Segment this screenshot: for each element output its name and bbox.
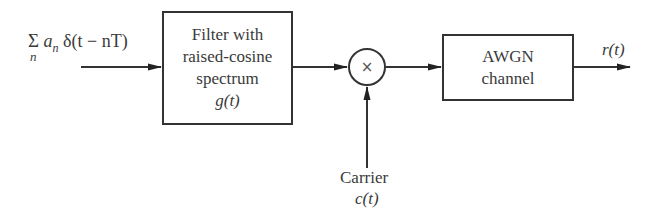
input-signal-label: Σ n an δ(t − nT) — [28, 30, 128, 56]
channel-line-2: channel — [482, 68, 535, 90]
output-signal-label: r(t) — [602, 40, 625, 60]
filter-line-3: spectrum — [196, 68, 258, 90]
channel-line-1: AWGN — [482, 46, 534, 68]
filter-impulse-response: g(t) — [215, 90, 240, 112]
coefficient: a — [44, 31, 53, 51]
carrier-signal-label: c(t) — [355, 189, 379, 209]
multiplier-node: × — [348, 48, 386, 86]
delta-term: δ(t − nT) — [59, 31, 128, 51]
carrier-label: Carrier — [340, 168, 388, 188]
awgn-channel-block: AWGN channel — [442, 34, 574, 101]
sum-symbol: Σ — [28, 30, 39, 51]
filter-line-1: Filter with — [192, 24, 263, 46]
sum-index: n — [30, 49, 37, 65]
multiply-icon: × — [361, 58, 374, 76]
filter-line-2: raised-cosine — [183, 46, 273, 68]
raised-cosine-filter-block: Filter with raised-cosine spectrum g(t) — [162, 11, 293, 125]
